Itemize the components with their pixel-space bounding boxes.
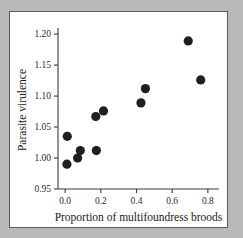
scatter-plot-canvas: 0.951.001.051.101.151.20 0.00.20.40.60.8… xyxy=(10,12,229,229)
x-axis-tick-label: 0.8 xyxy=(202,196,214,206)
data-point-group xyxy=(62,36,205,169)
scatter-plot: 0.951.001.051.101.151.20 0.00.20.40.60.8… xyxy=(10,12,229,229)
y-axis-title: Parasite virulence xyxy=(16,69,28,151)
x-axis-tick-label: 0.2 xyxy=(95,196,107,206)
data-point xyxy=(184,36,193,45)
figure-panel: 0.951.001.051.101.151.20 0.00.20.40.60.8… xyxy=(9,11,228,228)
y-axis-tick-label: 0.95 xyxy=(34,184,51,194)
y-axis-tick-label: 1.05 xyxy=(34,122,51,132)
data-point xyxy=(62,160,71,169)
y-axis-tick-label: 1.00 xyxy=(34,153,51,163)
y-axis-tick-label: 1.15 xyxy=(34,60,51,70)
data-point xyxy=(92,146,101,155)
data-point xyxy=(99,106,108,115)
x-axis-tick-label: 0.4 xyxy=(131,196,143,206)
x-axis-tick-label: 0.6 xyxy=(166,196,178,206)
data-point xyxy=(136,98,145,107)
y-axis-tick-label: 1.10 xyxy=(34,91,51,101)
data-point xyxy=(91,112,100,121)
x-axis-ticks xyxy=(65,189,208,193)
data-point xyxy=(141,84,150,93)
y-axis-tick-labels: 0.951.001.051.101.151.20 xyxy=(34,29,51,194)
x-axis-tick-labels: 0.00.20.40.60.8 xyxy=(59,196,214,206)
y-axis-tick-label: 1.20 xyxy=(34,29,51,39)
y-axis-ticks xyxy=(54,34,58,189)
data-point xyxy=(76,146,85,155)
x-axis-title: Proportion of multifoundress broods xyxy=(55,211,223,224)
data-point xyxy=(63,132,72,141)
figure-root: 0.951.001.051.101.151.20 0.00.20.40.60.8… xyxy=(0,0,243,238)
data-point xyxy=(196,75,205,84)
x-axis-tick-label: 0.0 xyxy=(59,196,71,206)
